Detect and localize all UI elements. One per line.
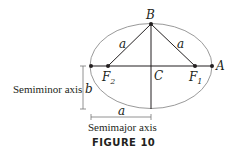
label-side-left: a bbox=[119, 37, 126, 51]
label-semiminor-b: b bbox=[85, 82, 93, 96]
point-f1 bbox=[193, 64, 197, 68]
label-semimajor-a: a bbox=[118, 104, 125, 118]
semiminor-axis-label: Semiminor axis bbox=[13, 83, 82, 95]
label-f2: F2 bbox=[101, 70, 115, 86]
label-side-right: a bbox=[177, 37, 184, 51]
semimajor-axis-label: Semimajor axis bbox=[88, 121, 157, 133]
ellipse-diagram: B A C F2 F1 a a b Semiminor axis a Semim… bbox=[0, 0, 237, 156]
point-b bbox=[149, 22, 153, 26]
point-f2 bbox=[106, 64, 110, 68]
figure-caption: FIGURE 10 bbox=[92, 137, 155, 148]
segment-f2-b bbox=[108, 24, 151, 66]
segment-b-f1 bbox=[151, 24, 195, 66]
label-b: B bbox=[145, 8, 155, 22]
label-f1: F1 bbox=[188, 70, 202, 86]
label-c: C bbox=[154, 69, 163, 83]
label-a-point: A bbox=[215, 59, 225, 73]
point-a bbox=[210, 64, 214, 68]
point-vertex-left bbox=[89, 64, 93, 68]
